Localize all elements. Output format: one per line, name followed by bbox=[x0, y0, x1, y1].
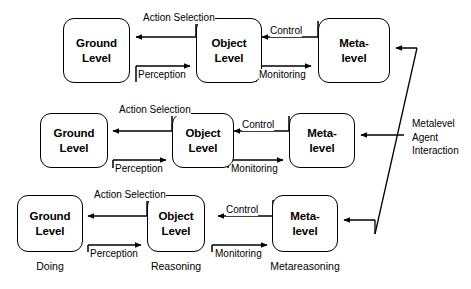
node-label-line2: Level bbox=[82, 51, 111, 65]
edge-label-line2: Selection bbox=[150, 104, 191, 115]
node-label-line1: Ground bbox=[54, 126, 95, 140]
node-meta-level-top[interactable]: Meta- level bbox=[318, 18, 390, 83]
node-label-line1: Object bbox=[185, 126, 220, 140]
edge-label-action-selection-bottom: Action Selection bbox=[94, 189, 166, 201]
metalevel-agent-interaction-label: Metalevel Agent Interaction bbox=[412, 117, 459, 158]
caption-doing: Doing bbox=[17, 260, 83, 272]
arrow-action-selection-middle bbox=[113, 116, 172, 131]
edge-label-perception-bottom: Perception bbox=[90, 248, 138, 260]
node-label-line2: level bbox=[341, 51, 366, 65]
node-label-line1: Object bbox=[158, 209, 193, 223]
caption-metareasoning: Metareasoning bbox=[262, 260, 348, 272]
node-ground-level-middle[interactable]: Ground Level bbox=[40, 113, 108, 168]
node-label-line2: Level bbox=[60, 141, 89, 155]
node-label-line1: Ground bbox=[30, 209, 71, 223]
side-label-line2: Agent bbox=[412, 131, 459, 145]
edge-label-perception-top: Perception bbox=[138, 69, 186, 81]
edge-label-line1: Monitoring bbox=[231, 163, 278, 174]
node-label-line1: Ground bbox=[76, 36, 117, 50]
node-label-line1: Meta- bbox=[339, 36, 369, 50]
arrow-action-selection-bottom bbox=[88, 200, 147, 216]
edge-label-control-bottom: Control bbox=[226, 204, 258, 216]
edge-label-control-middle: Control bbox=[242, 119, 274, 131]
node-label-line2: level bbox=[292, 224, 317, 238]
node-label-line2: Level bbox=[189, 141, 218, 155]
node-object-level-top[interactable]: Object Level bbox=[196, 18, 262, 83]
edge-label-line1: Perception bbox=[90, 248, 138, 259]
node-label-line2: Level bbox=[162, 224, 191, 238]
edge-label-action-selection-top: Action Selection bbox=[143, 12, 215, 24]
edge-label-line1: Control bbox=[226, 204, 258, 215]
edge-label-line2: Selection bbox=[125, 189, 166, 200]
edge-label-line1: Action bbox=[119, 104, 147, 115]
edge-label-line1: Perception bbox=[138, 69, 186, 80]
metareasoning-diagram: Ground Level Object Level Meta- level Ac… bbox=[0, 0, 471, 289]
edge-label-monitoring-bottom: Monitoring bbox=[215, 248, 262, 260]
edge-label-monitoring-middle: Monitoring bbox=[231, 163, 278, 175]
edge-label-control-top: Control bbox=[270, 25, 302, 37]
edge-label-perception-middle: Perception bbox=[115, 163, 163, 175]
edge-label-line1: Action bbox=[143, 12, 171, 23]
edge-label-action-selection-middle: Action Selection bbox=[119, 104, 191, 116]
node-label-line2: level bbox=[309, 141, 334, 155]
edge-label-line1: Monitoring bbox=[259, 69, 306, 80]
node-label-line1: Meta- bbox=[307, 126, 337, 140]
node-meta-level-middle[interactable]: Meta- level bbox=[289, 113, 355, 168]
edge-label-line1: Monitoring bbox=[215, 248, 262, 259]
edge-label-line1: Action bbox=[94, 189, 122, 200]
edge-label-line1: Control bbox=[270, 25, 302, 36]
node-ground-level-bottom[interactable]: Ground Level bbox=[17, 195, 83, 252]
node-meta-level-bottom[interactable]: Meta- level bbox=[272, 195, 338, 252]
side-label-line1: Metalevel bbox=[412, 117, 459, 131]
edge-label-line2: Selection bbox=[174, 12, 215, 23]
edge-label-line1: Perception bbox=[115, 163, 163, 174]
node-label-line1: Meta- bbox=[290, 209, 320, 223]
node-object-level-middle[interactable]: Object Level bbox=[172, 113, 234, 168]
node-object-level-bottom[interactable]: Object Level bbox=[147, 195, 205, 252]
node-label-line2: Level bbox=[36, 224, 65, 238]
side-label-line3: Interaction bbox=[412, 144, 459, 158]
edge-label-line1: Control bbox=[242, 119, 274, 130]
caption-reasoning: Reasoning bbox=[137, 260, 215, 272]
node-label-line2: Level bbox=[215, 51, 244, 65]
node-ground-level-top[interactable]: Ground Level bbox=[63, 18, 130, 83]
node-label-line1: Object bbox=[211, 36, 246, 50]
edge-label-monitoring-top: Monitoring bbox=[259, 69, 306, 81]
